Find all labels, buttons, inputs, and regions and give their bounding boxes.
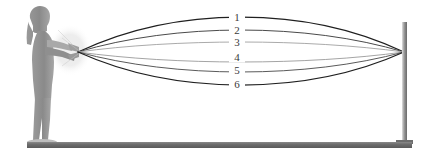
- curve-label-3: 3: [229, 37, 245, 48]
- ground-line: [27, 142, 412, 148]
- diagram-canvas: 1 2 3 4 5 6: [0, 0, 433, 163]
- scene-graphics: [0, 0, 433, 163]
- curve-label-4: 4: [229, 52, 245, 63]
- vertical-pole: [402, 22, 407, 143]
- curve-label-6: 6: [229, 79, 245, 90]
- curve-label-2: 2: [229, 25, 245, 36]
- curve-label-5: 5: [229, 65, 245, 76]
- curve-label-1: 1: [229, 12, 245, 23]
